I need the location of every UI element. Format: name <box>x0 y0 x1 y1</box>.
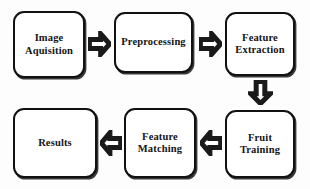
node-preprocessing[interactable]: Preprocessing <box>114 12 193 73</box>
node-results[interactable]: Results <box>13 108 97 178</box>
node-feature-extraction-label: Feature Extraction <box>232 32 287 57</box>
arrow-left-icon-5 <box>100 130 122 156</box>
arrow-right-icon-2 <box>199 31 222 57</box>
node-preprocessing-label: Preprocessing <box>118 36 189 48</box>
node-feature-matching[interactable]: Feature Matching <box>124 108 196 178</box>
arrow-left-icon-4 <box>200 130 222 156</box>
node-feature-extraction[interactable]: Feature Extraction <box>225 12 295 76</box>
node-fruit-training-label: Fruit Training <box>237 132 283 157</box>
node-image-aquisition[interactable]: Image Aquisition <box>13 11 85 78</box>
node-results-label: Results <box>35 137 75 149</box>
arrow-down-icon-3 <box>248 80 273 105</box>
node-feature-matching-label: Feature Matching <box>135 131 185 156</box>
node-image-aquisition-label: Image Aquisition <box>22 32 76 57</box>
flowchart-canvas: Image Aquisition Preprocessing Feature E… <box>0 0 310 189</box>
node-fruit-training[interactable]: Fruit Training <box>225 110 295 178</box>
arrow-right-icon-1 <box>88 31 111 57</box>
